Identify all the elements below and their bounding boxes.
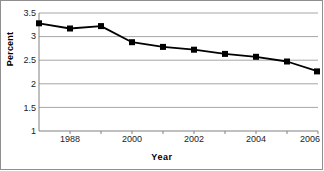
axis-lines	[39, 13, 318, 131]
x-tick-label: 2006	[290, 135, 324, 144]
x-tick-label: 2004	[236, 135, 276, 144]
x-tick-label: 2000	[112, 135, 152, 144]
x-axis-title: Year	[0, 152, 324, 162]
data-series-line	[39, 23, 318, 71]
x-tick-label: 2002	[174, 135, 214, 144]
chart-plot-area	[0, 0, 324, 171]
x-tick-label: 1988	[50, 135, 90, 144]
chart-container: Percent 3.5 3 2.5 2 1.5 1	[0, 0, 324, 171]
